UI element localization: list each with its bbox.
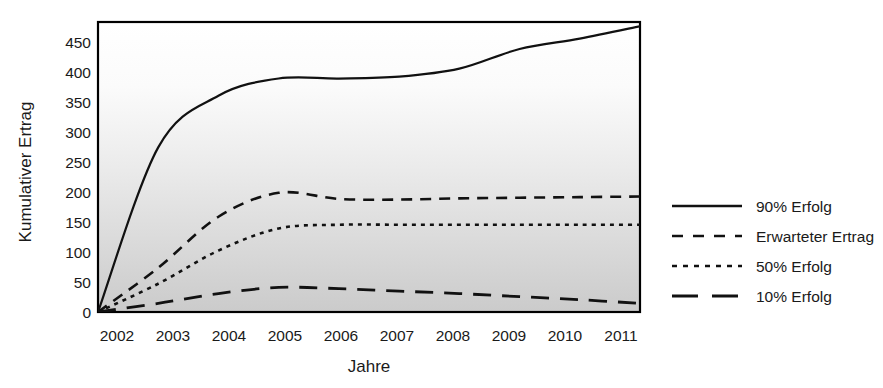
x-tick-2008: 2008 — [436, 327, 470, 344]
y-tick-450: 450 — [65, 34, 91, 51]
legend-item-90-erfolg[interactable]: 90% Erfolg — [672, 198, 832, 215]
chart-figure: 450 400 350 300 250 200 150 100 50 0 Kum… — [0, 0, 883, 388]
x-tick-2005: 2005 — [268, 327, 302, 344]
x-tick-2006: 2006 — [324, 327, 358, 344]
legend-item-10-erfolg[interactable]: 10% Erfolg — [672, 288, 832, 305]
legend-item-50-erfolg[interactable]: 50% Erfolg — [672, 258, 832, 275]
legend-label-90-erfolg: 90% Erfolg — [756, 198, 832, 215]
y-tick-150: 150 — [65, 214, 91, 231]
legend-label-10-erfolg: 10% Erfolg — [756, 288, 832, 305]
legend-label-erwarteter-ertrag: Erwarteter Ertrag — [756, 228, 874, 245]
x-tick-2009: 2009 — [492, 327, 526, 344]
legend-item-erwarteter-ertrag[interactable]: Erwarteter Ertrag — [672, 228, 874, 245]
x-axis-ticks: 2002 2003 2004 2005 2006 2007 2008 2009 … — [100, 327, 638, 344]
x-tick-2002: 2002 — [100, 327, 134, 344]
y-tick-400: 400 — [65, 64, 91, 81]
x-axis-title: Jahre — [348, 357, 391, 376]
y-tick-0: 0 — [82, 304, 91, 321]
x-tick-2007: 2007 — [380, 327, 414, 344]
legend-label-50-erfolg: 50% Erfolg — [756, 258, 832, 275]
y-tick-300: 300 — [65, 124, 91, 141]
y-tick-50: 50 — [74, 274, 92, 291]
x-tick-2003: 2003 — [156, 327, 190, 344]
y-tick-250: 250 — [65, 154, 91, 171]
y-tick-200: 200 — [65, 184, 91, 201]
x-tick-2004: 2004 — [212, 327, 247, 344]
chart-legend: 90% Erfolg Erwarteter Ertrag 50% Erfolg … — [672, 198, 874, 305]
x-tick-2011: 2011 — [604, 327, 637, 344]
x-tick-2010: 2010 — [548, 327, 583, 344]
y-axis-title: Kumulativer Ertrag — [16, 102, 35, 243]
chart-svg: 450 400 350 300 250 200 150 100 50 0 Kum… — [0, 0, 883, 388]
y-axis-ticks: 450 400 350 300 250 200 150 100 50 0 — [65, 34, 91, 321]
y-tick-100: 100 — [65, 244, 91, 261]
plot-background — [98, 22, 640, 312]
y-tick-350: 350 — [65, 94, 91, 111]
